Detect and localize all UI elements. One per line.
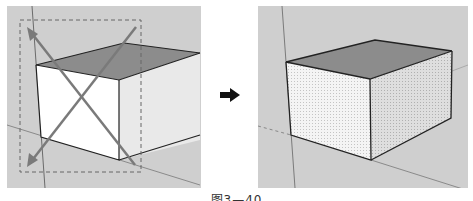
figure-caption: 图3—40 [0,190,473,201]
before-scene [7,6,201,188]
after-scene [258,6,468,188]
before-panel [7,6,201,188]
box-front-face[interactable] [36,65,119,160]
after-panel [258,6,468,188]
axis-line-red [371,160,466,188]
axis-line-red-hidden [258,126,291,135]
right-arrow-icon [220,88,240,102]
axis-line-far [452,65,468,71]
